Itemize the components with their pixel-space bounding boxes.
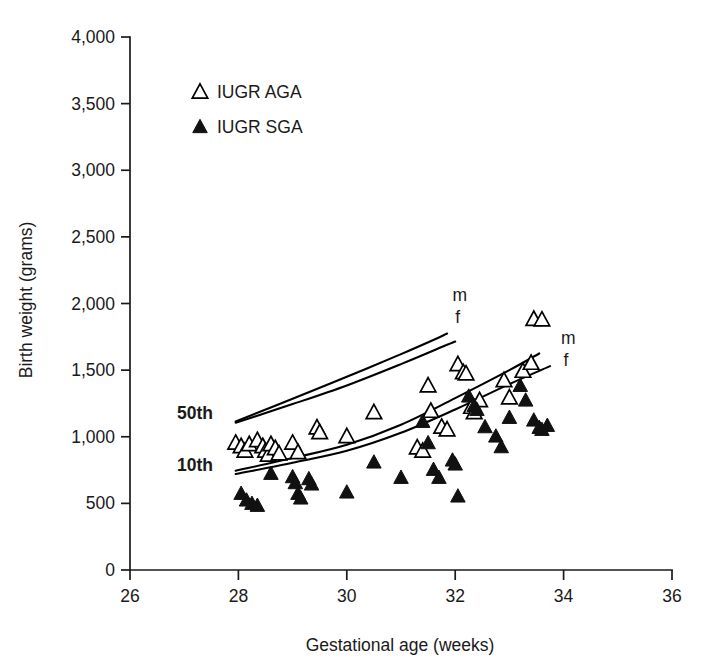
y-axis-ticks: 05001,0001,5002,0002,5003,0003,5004,000 (71, 27, 130, 580)
scatter-plot: 05001,0001,5002,0002,5003,0003,5004,000 … (0, 0, 717, 668)
percentile-text-labels: 50th10th (177, 403, 213, 475)
percentile-label: 50th (177, 403, 213, 423)
y-tick-label: 4,000 (71, 27, 115, 47)
y-tick-label: 0 (105, 560, 115, 580)
y-tick-label: 1,000 (71, 427, 115, 447)
y-tick-label: 2,000 (71, 294, 115, 314)
percentile-label: 10th (177, 455, 213, 475)
curve-sex-label: f (564, 350, 569, 370)
x-tick-label: 34 (554, 586, 574, 606)
data-point-sga (340, 485, 355, 498)
legend-marker-filled-triangle-icon (193, 119, 208, 132)
legend-label: IUGR SGA (217, 117, 303, 137)
axis-lines (130, 37, 672, 570)
data-point-sga (502, 410, 517, 423)
data-point-aga (496, 372, 512, 386)
chart-figure: 05001,0001,5002,0002,5003,0003,5004,000 … (0, 0, 717, 668)
curve-sex-label: f (455, 307, 460, 327)
data-point-sga (394, 470, 409, 483)
x-tick-label: 36 (662, 586, 681, 606)
data-point-sga (478, 419, 493, 432)
data-point-aga (423, 403, 439, 417)
y-tick-label: 1,500 (71, 360, 115, 380)
x-tick-label: 32 (445, 586, 464, 606)
data-point-aga (339, 428, 355, 442)
legend-label: IUGR AGA (217, 82, 302, 102)
percentile-curve (236, 333, 447, 421)
curve-sex-label: m (452, 285, 467, 305)
legend-marker-open-triangle-icon (192, 84, 208, 98)
x-tick-label: 30 (337, 586, 357, 606)
percentile-curve (236, 341, 456, 422)
data-point-aga (420, 378, 436, 392)
x-axis-ticks: 262830323436 (120, 570, 681, 606)
chart-legend: IUGR AGAIUGR SGA (192, 82, 303, 137)
x-tick-label: 26 (120, 586, 139, 606)
x-axis-title: Gestational age (weeks) (306, 635, 495, 655)
data-point-sga (513, 378, 528, 391)
y-tick-label: 3,000 (71, 160, 115, 180)
data-point-aga (366, 404, 382, 418)
x-tick-label: 28 (229, 586, 248, 606)
y-tick-label: 500 (86, 493, 115, 513)
y-tick-label: 3,500 (71, 94, 115, 114)
curve-sex-label: m (561, 328, 576, 348)
data-point-sga (451, 489, 466, 502)
data-point-sga (518, 393, 533, 406)
y-axis-title: Birth weight (grams) (16, 222, 36, 379)
data-point-sga (367, 455, 382, 468)
curve-sex-labels: mfmf (452, 285, 575, 370)
y-tick-label: 2,500 (71, 227, 115, 247)
